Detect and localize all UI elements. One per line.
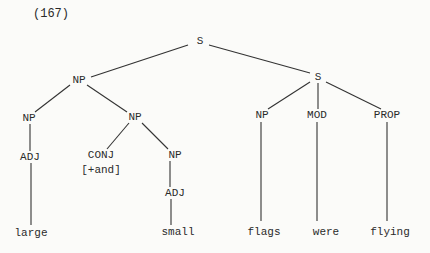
tree-edge [107, 123, 129, 149]
tree-edge [209, 45, 310, 73]
tree-node-np-subj: NP [72, 75, 85, 86]
tree-node-mod: MOD [307, 110, 327, 121]
tree-node-np-inner: NP [168, 150, 181, 161]
tree-node-np-conj: NP [128, 112, 141, 123]
tree-node-prop: PROP [374, 110, 400, 121]
tree-node-leaf-were: were [313, 227, 339, 238]
tree-edge [268, 82, 310, 109]
tree-edge [326, 82, 381, 109]
tree-edge [35, 85, 70, 112]
tree-edges [0, 0, 430, 253]
tree-edge [87, 85, 127, 112]
tree-node-leaf-flags: flags [247, 227, 280, 238]
tree-node-adj-inner: ADJ [165, 188, 185, 199]
tree-node-s-root: S [197, 36, 204, 47]
tree-node-conj: CONJ [88, 150, 114, 161]
tree-node-np-left: NP [22, 113, 35, 124]
syntax-tree-diagram: (167) SNPSNPNPADJCONJ[+and]NPADJNPMODPRO… [0, 0, 430, 253]
tree-node-s-pred: S [315, 72, 322, 83]
tree-node-np-right: NP [255, 110, 268, 121]
tree-edge [91, 45, 188, 77]
tree-edge [142, 123, 168, 149]
tree-node-leaf-large: large [14, 228, 47, 239]
tree-node-conj-feature: [+and] [81, 165, 121, 176]
example-number: (167) [33, 8, 69, 20]
tree-node-adj-left: ADJ [20, 152, 40, 163]
tree-node-leaf-small: small [161, 227, 194, 238]
tree-node-leaf-flying: flying [370, 227, 410, 238]
